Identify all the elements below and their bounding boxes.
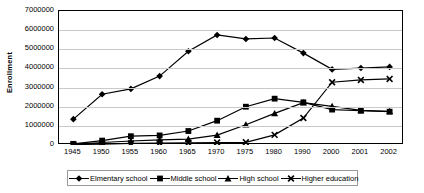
x-axis-tick-label: 1955 [122,147,139,156]
y-axis-tick-labels: 7000000600000050000004000000300000020000… [8,0,54,193]
x-axis-tick-label: 1960 [150,147,167,156]
x-axis-tick-labels: 1945195019551960196519701975198019902000… [58,147,403,161]
gridline [59,107,402,108]
x-axis-tick-label: 1990 [294,147,311,156]
x-axis-tick-label: 1975 [237,147,254,156]
gridline [59,68,402,69]
x-axis-tick-label: 1945 [64,147,81,156]
series-middle-school [70,96,392,145]
x-axis-tick-label: 2002 [380,147,397,156]
x-axis-tick-label: 2001 [352,147,369,156]
diamond-icon [69,174,89,183]
y-axis-tick-label: 1000000 [8,121,54,129]
diamond-marker [386,64,393,71]
square-marker [185,128,191,134]
legend-item[interactable]: High school [217,174,279,183]
square-marker [214,118,220,124]
gridline [59,88,402,89]
cross-icon [281,174,301,183]
y-axis-tick-label: 4000000 [8,63,54,71]
y-axis-tick-label: 7000000 [8,6,54,14]
legend-item-label: Higher education [302,174,359,183]
square-marker [272,96,278,102]
y-axis-tick-label: 6000000 [8,25,54,33]
y-axis-tick-label: 3000000 [8,83,54,91]
legend-item[interactable]: Elmentary school [68,174,149,183]
square-icon [150,174,170,183]
y-axis-tick-label: 2000000 [8,102,54,110]
series-canvas [59,11,404,145]
legend-item[interactable]: Middle school [149,174,218,183]
y-axis-tick-label: 0 [8,140,54,148]
series-elmentary-school [70,32,393,123]
x-axis-tick-label: 1980 [265,147,282,156]
diamond-marker [271,35,278,42]
legend-item[interactable]: Higher education [280,174,360,183]
legend-item-label: Middle school [171,174,217,183]
triangle-icon [218,174,238,183]
gridline [59,30,402,31]
triangle-marker [225,175,232,181]
enrollment-line-chart: Enrollment 70000006000000500000040000003… [0,0,424,193]
diamond-marker [76,175,83,182]
diamond-marker [243,36,250,43]
cross-marker [300,115,306,121]
legend-item-label: Elmentary school [90,174,148,183]
x-axis-tick-label: 1965 [179,147,196,156]
y-axis-tick-label: 5000000 [8,44,54,52]
chart-legend: Elmentary schoolMiddle schoolHigh school… [67,170,358,186]
legend-item-label: High school [239,174,278,183]
x-axis-tick-label: 1950 [93,147,110,156]
square-marker [157,175,163,181]
gridline [59,126,402,127]
cross-marker [288,175,294,181]
plot-area [58,10,403,144]
diamond-marker [300,50,307,57]
x-axis-tick-label: 1970 [208,147,225,156]
gridline [59,49,402,50]
x-axis-tick-label: 2000 [323,147,340,156]
diamond-marker [214,32,221,39]
